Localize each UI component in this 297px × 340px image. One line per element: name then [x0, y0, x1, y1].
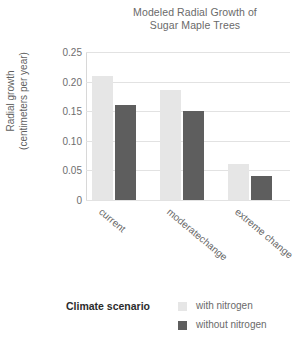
chart-title-line-1: Modeled Radial Growth of: [100, 6, 290, 19]
y-axis-tick-labels: 00.050.100.150.200.25: [30, 0, 82, 340]
bar: [160, 90, 181, 200]
y-axis-title-line-1: Radial growth: [4, 36, 17, 166]
chart-legend: Climate scenario with nitrogenwithout ni…: [0, 298, 297, 340]
bar: [183, 111, 204, 200]
bar: [92, 76, 113, 200]
y-axis-tick-label: 0.20: [36, 76, 82, 87]
bar: [115, 105, 136, 200]
y-axis-tick-label: 0.10: [36, 135, 82, 146]
y-axis-tick-label: 0.05: [36, 165, 82, 176]
bar: [228, 164, 249, 200]
y-axis-title-line-2: (centimeters per year): [17, 36, 30, 166]
y-axis-tick-label: 0.25: [36, 47, 82, 58]
y-axis-tick-label: 0: [36, 195, 82, 206]
x-axis-tick-label: current: [97, 206, 128, 234]
y-axis-title: Radial growth (centimeters per year): [4, 36, 30, 166]
legend-label: without nitrogen: [196, 319, 267, 330]
x-axis-tick-label: extreme change: [233, 206, 295, 261]
legend-swatch: [178, 321, 187, 330]
y-axis-tick-label: 0.15: [36, 106, 82, 117]
chart-title-line-2: Sugar Maple Trees: [100, 19, 290, 32]
gridline: [86, 200, 290, 201]
gridline: [86, 82, 290, 83]
gridline: [86, 52, 290, 53]
legend-swatch: [178, 302, 187, 311]
x-axis-tick-label: moderatechange: [165, 206, 230, 263]
chart-title: Modeled Radial Growth of Sugar Maple Tre…: [100, 6, 290, 32]
bar: [251, 176, 272, 200]
legend-label: with nitrogen: [196, 300, 253, 311]
plot-area: [86, 52, 290, 200]
legend-title: Climate scenario: [66, 300, 150, 312]
